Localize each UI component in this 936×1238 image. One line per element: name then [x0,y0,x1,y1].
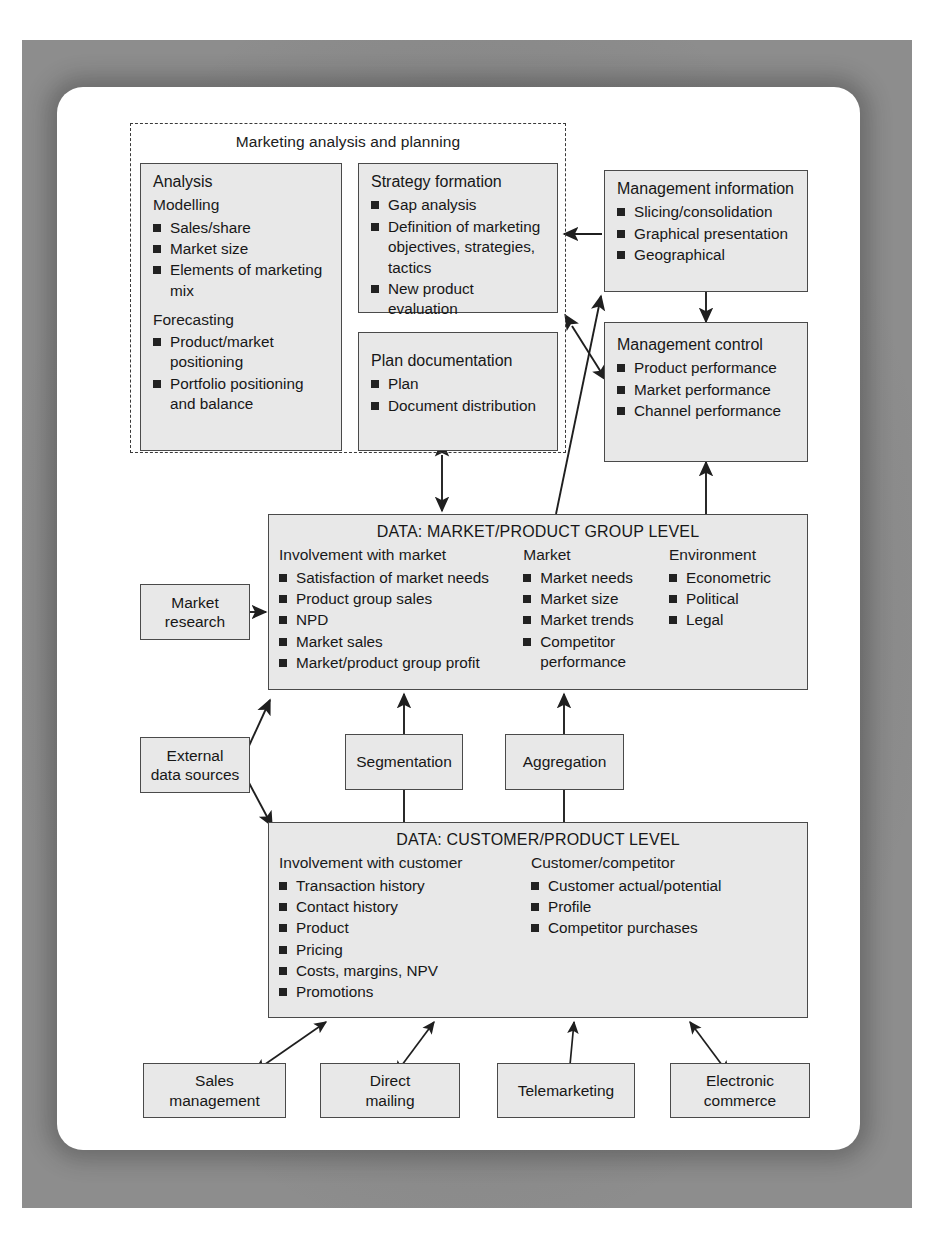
box-plan-documentation[interactable]: Plan documentation Plan Document distrib… [358,332,558,451]
square-bullet-icon [153,266,161,274]
square-bullet-icon [279,882,287,890]
list-item: Contact history [279,897,531,917]
square-bullet-icon [153,338,161,346]
box-aggregation[interactable]: Aggregation [505,734,624,790]
square-bullet-icon [617,386,625,394]
box-market-research[interactable]: Market research [140,584,250,640]
square-bullet-icon [153,224,161,232]
box-data-market-product-group-level[interactable]: DATA: MARKET/PRODUCT GROUP LEVEL Involve… [268,514,808,690]
square-bullet-icon [531,903,539,911]
plan-documentation-list: Plan Document distribution [371,374,547,416]
square-bullet-icon [669,574,677,582]
list-item: NPD [279,610,523,630]
list-item: Transaction history [279,876,531,896]
box-electronic-commerce[interactable]: Electronic commerce [670,1063,810,1118]
list-item: New product evaluation [371,279,547,320]
list-item: Definition of marketing objectives, stra… [371,217,547,278]
box-telemarketing[interactable]: Telemarketing [497,1063,635,1118]
box-management-information[interactable]: Management information Slicing/consolida… [604,170,808,292]
square-bullet-icon [371,402,379,410]
column-heading: Environment [669,545,797,565]
square-bullet-icon [371,380,379,388]
square-bullet-icon [279,903,287,911]
list-item: Sales/share [153,218,331,238]
external-data-sources-label: External data sources [151,746,240,785]
square-bullet-icon [531,882,539,890]
square-bullet-icon [153,380,161,388]
management-control-list: Product performance Market performance C… [617,358,797,421]
list-item: Pricing [279,940,531,960]
square-bullet-icon [617,364,625,372]
square-bullet-icon [617,251,625,259]
box-management-control[interactable]: Management control Product performance M… [604,322,808,462]
square-bullet-icon [669,595,677,603]
connector-planning-to-mgmtcontrol [572,326,606,380]
square-bullet-icon [617,230,625,238]
list-item: Costs, margins, NPV [279,961,531,981]
diagram-canvas: Marketing analysis and planning Analysis… [0,0,936,1238]
square-bullet-icon [523,574,531,582]
box-segmentation[interactable]: Segmentation [345,734,463,790]
box-external-data-sources[interactable]: External data sources [140,737,250,793]
market-data-column-involvement: Involvement with market Satisfaction of … [279,545,523,674]
list-item: Promotions [279,982,531,1002]
square-bullet-icon [371,201,379,209]
square-bullet-icon [371,223,379,231]
connector-electroniccommerce [690,1022,722,1065]
list-item: Political [669,589,797,609]
list-item: Channel performance [617,401,797,421]
market-data-columns: Involvement with market Satisfaction of … [279,545,797,674]
list-item: Market size [153,239,331,259]
square-bullet-icon [531,924,539,932]
list-item: Plan [371,374,547,394]
list-item: Product group sales [279,589,523,609]
connector-telemarketing [570,1022,574,1065]
column-heading: Involvement with customer [279,853,531,873]
list-item: Elements of marketing mix [153,260,331,301]
square-bullet-icon [279,946,287,954]
square-bullet-icon [617,208,625,216]
box-strategy-formation[interactable]: Strategy formation Gap analysis Definiti… [358,163,558,313]
customer-data-column-involvement: Involvement with customer Transaction hi… [279,853,531,1003]
customer-data-column-competitor: Customer/competitor Customer actual/pote… [531,853,771,1003]
column-list: Market needs Market size Market trends C… [523,568,669,673]
plan-documentation-title: Plan documentation [371,351,547,371]
list-item: Satisfaction of market needs [279,568,523,588]
electronic-commerce-label: Electronic commerce [704,1071,776,1110]
strategy-formation-title: Strategy formation [371,172,547,192]
analysis-modelling-heading: Modelling [153,195,331,215]
connector-externaldata-to-marketdata [248,700,270,748]
management-control-title: Management control [617,335,797,355]
square-bullet-icon [279,967,287,975]
box-direct-mailing[interactable]: Direct mailing [320,1063,460,1118]
square-bullet-icon [523,595,531,603]
list-item: Market/product group profit [279,653,523,673]
direct-mailing-label: Direct mailing [365,1071,414,1110]
customer-data-columns: Involvement with customer Transaction hi… [279,853,797,1003]
analysis-title: Analysis [153,172,331,192]
analysis-modelling-list: Sales/share Market size Elements of mark… [153,218,331,301]
list-item: Slicing/consolidation [617,202,797,222]
box-data-customer-product-level[interactable]: DATA: CUSTOMER/PRODUCT LEVEL Involvement… [268,822,808,1018]
square-bullet-icon [523,638,531,646]
square-bullet-icon [279,574,287,582]
list-item: Product [279,918,531,938]
telemarketing-label: Telemarketing [518,1081,615,1100]
column-list: Satisfaction of market needs Product gro… [279,568,523,674]
column-heading: Involvement with market [279,545,523,565]
list-item: Market size [523,589,669,609]
customer-data-title: DATA: CUSTOMER/PRODUCT LEVEL [279,830,797,850]
list-item: Product/market positioning [153,332,331,373]
analysis-forecasting-heading: Forecasting [153,310,331,330]
list-item: Market sales [279,632,523,652]
column-heading: Market [523,545,669,565]
group-title: Marketing analysis and planning [131,133,565,151]
connector-externaldata-to-customerdata [248,781,272,826]
list-item: Profile [531,897,771,917]
box-sales-management[interactable]: Sales management [143,1063,286,1118]
box-analysis[interactable]: Analysis Modelling Sales/share Market si… [140,163,342,451]
market-research-label: Market research [165,593,225,632]
strategy-formation-list: Gap analysis Definition of marketing obj… [371,195,547,319]
sales-management-label: Sales management [169,1071,259,1110]
square-bullet-icon [279,595,287,603]
